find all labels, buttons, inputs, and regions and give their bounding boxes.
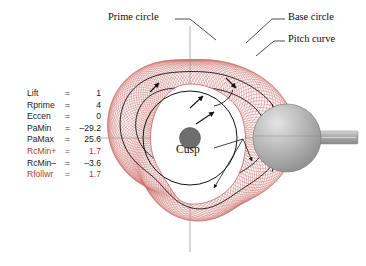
label-pitch-curve: Pitch curve — [288, 33, 335, 44]
leader-prime-circle — [175, 19, 216, 40]
param-row: Eccen=0 — [27, 111, 101, 123]
param-name: PaMax — [27, 134, 65, 146]
cam-diagram-figure: Lift=1Rprime=4Eccen=0PaMin=–29.2PaMax=25… — [0, 0, 366, 266]
parameter-table: Lift=1Rprime=4Eccen=0PaMin=–29.2PaMax=25… — [27, 88, 101, 181]
param-equals: = — [65, 169, 75, 181]
param-name: RcMin+ — [27, 146, 65, 158]
param-name: Rprime — [27, 100, 65, 112]
param-value: –29.2 — [75, 123, 101, 135]
param-value: 1.7 — [75, 169, 101, 181]
param-row: Rfollwr=1.7 — [27, 169, 101, 181]
param-value: 0 — [75, 111, 101, 123]
param-equals: = — [65, 88, 75, 100]
callout-leaders — [175, 19, 285, 56]
label-cusp: Cusp — [176, 143, 200, 155]
param-row: Rprime=4 — [27, 100, 101, 112]
param-row: RcMin–=–3.6 — [27, 158, 101, 170]
param-name: Rfollwr — [27, 169, 65, 181]
param-value: 1 — [75, 88, 101, 100]
param-equals: = — [65, 146, 75, 158]
param-name: Lift — [27, 88, 65, 100]
param-equals: = — [65, 123, 75, 135]
leader-pitch-curve — [256, 41, 285, 56]
label-prime-circle: Prime circle — [108, 11, 159, 22]
param-name: RcMin– — [27, 158, 65, 170]
param-name: PaMin — [27, 123, 65, 135]
param-value: 25.6 — [75, 134, 101, 146]
param-row: RcMin+=1.7 — [27, 146, 101, 158]
param-value: 1.7 — [75, 146, 101, 158]
leader-base-circle — [246, 19, 285, 43]
param-equals: = — [65, 111, 75, 123]
roller-follower — [253, 104, 321, 172]
param-row: PaMax=25.6 — [27, 134, 101, 146]
param-row: Lift=1 — [27, 88, 101, 100]
param-equals: = — [65, 158, 75, 170]
param-equals: = — [65, 100, 75, 112]
param-row: PaMin=–29.2 — [27, 123, 101, 135]
param-value: 4 — [75, 100, 101, 112]
param-value: –3.6 — [75, 158, 101, 170]
param-name: Eccen — [27, 111, 65, 123]
param-equals: = — [65, 134, 75, 146]
roller-follower-assembly — [253, 104, 358, 172]
label-base-circle: Base circle — [288, 11, 334, 22]
